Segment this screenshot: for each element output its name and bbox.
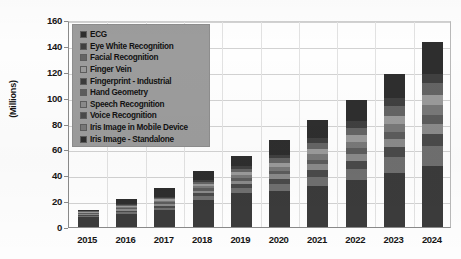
legend-label: Fingerprint - Industrial <box>90 77 171 86</box>
bar-segment <box>346 169 367 181</box>
y-axis-tick-label: 160 <box>28 16 62 26</box>
bar-segment <box>307 177 328 186</box>
bar-segment <box>422 166 443 227</box>
bar-segment <box>307 120 328 139</box>
x-axis-tick-label: 2020 <box>259 234 299 245</box>
vertical-gridline <box>261 22 262 227</box>
legend-item[interactable]: Finger Vein <box>80 64 206 76</box>
bar-2016[interactable] <box>116 199 137 227</box>
legend-label: Iris Image in Mobile Device <box>90 123 188 132</box>
x-axis-tick-label: 2021 <box>297 234 337 245</box>
y-axis-tick-label: 120 <box>28 68 62 78</box>
bar-segment <box>384 98 405 106</box>
y-axis-tick-label: 20 <box>28 197 62 207</box>
legend-item[interactable]: Voice Recognition <box>80 110 206 122</box>
legend-swatch-icon <box>80 112 87 119</box>
legend-label: Iris Image - Standalone <box>90 135 174 144</box>
bar-segment <box>346 128 367 136</box>
bar-segment <box>422 115 443 124</box>
bar-segment <box>193 171 214 179</box>
vertical-gridline <box>299 22 300 227</box>
legend-item[interactable]: Eye White Recognition <box>80 41 206 53</box>
bar-2018[interactable] <box>193 171 214 227</box>
vertical-gridline <box>414 22 415 227</box>
x-axis-tick-label: 2022 <box>335 234 375 245</box>
bar-segment <box>346 154 367 161</box>
legend-label: Facial Recognition <box>90 53 158 62</box>
legend-swatch-icon <box>80 54 87 61</box>
bar-segment <box>269 140 290 154</box>
gridline <box>69 22 450 23</box>
bar-2021[interactable] <box>307 120 328 227</box>
legend-item[interactable]: Iris Image in Mobile Device <box>80 122 206 134</box>
bar-segment <box>422 42 443 74</box>
bar-2015[interactable] <box>78 210 99 227</box>
legend-label: Voice Recognition <box>90 111 157 120</box>
x-axis-tick-label: 2024 <box>412 234 452 245</box>
legend-item[interactable]: Iris Image - Standalone <box>80 133 206 145</box>
bar-2019[interactable] <box>231 156 252 227</box>
legend-label: ECG <box>90 30 107 39</box>
bar-2020[interactable] <box>269 140 290 227</box>
legend-item[interactable]: Fingerprint - Industrial <box>80 75 206 87</box>
bar-2024[interactable] <box>422 42 443 227</box>
bar-segment <box>422 105 443 115</box>
y-axis-tick-label: 140 <box>28 42 62 52</box>
legend-item[interactable]: Speech Recognition <box>80 99 206 111</box>
bar-segment <box>346 142 367 149</box>
bar-segment <box>346 161 367 169</box>
legend-item[interactable]: Facial Recognition <box>80 52 206 64</box>
y-axis-tick-label: 100 <box>28 94 62 104</box>
legend-label: Finger Vein <box>90 65 131 74</box>
legend-swatch-icon <box>80 43 87 50</box>
bar-segment <box>384 116 405 124</box>
bar-segment <box>269 191 290 227</box>
bar-segment <box>384 132 405 139</box>
legend-item[interactable]: Hand Geometry <box>80 87 206 99</box>
x-axis-tick-label: 2017 <box>144 234 184 245</box>
bar-2022[interactable] <box>346 100 367 227</box>
legend-swatch-icon <box>80 31 87 38</box>
bar-segment <box>384 106 405 115</box>
y-axis-tick-label: 40 <box>28 171 62 181</box>
y-axis-tick-label: 60 <box>28 145 62 155</box>
bar-segment <box>346 100 367 121</box>
bar-segment <box>231 193 252 227</box>
legend-swatch-icon <box>80 101 87 108</box>
bar-segment <box>307 186 328 227</box>
bar-segment <box>231 156 252 166</box>
bar-segment <box>269 184 290 191</box>
bar-segment <box>193 200 214 227</box>
x-axis-tick-label: 2023 <box>374 234 414 245</box>
legend-label: Eye White Recognition <box>90 42 173 51</box>
chart-figure: 020406080100120140160 (Millions) 2015201… <box>0 0 461 259</box>
y-axis-tick-mark <box>64 228 68 229</box>
chart-legend: ECGEye White RecognitionFacial Recogniti… <box>72 24 210 147</box>
y-axis-tick-label: 0 <box>28 223 62 233</box>
legend-swatch-icon <box>80 66 87 73</box>
bar-segment <box>422 146 443 167</box>
bar-2023[interactable] <box>384 74 405 227</box>
bar-segment <box>384 173 405 227</box>
legend-label: Hand Geometry <box>90 88 148 97</box>
x-axis-tick-label: 2015 <box>67 234 107 245</box>
legend-swatch-icon <box>80 78 87 85</box>
bar-segment <box>384 74 405 98</box>
bar-segment <box>422 83 443 95</box>
x-axis-tick-label: 2016 <box>105 234 145 245</box>
legend-swatch-icon <box>80 89 87 96</box>
legend-item[interactable]: ECG <box>80 29 206 41</box>
legend-swatch-icon <box>80 136 87 143</box>
bar-segment <box>154 188 175 196</box>
bar-segment <box>422 74 443 84</box>
y-axis-tick-label: 80 <box>28 120 62 130</box>
vertical-gridline <box>375 22 376 227</box>
y-axis-title: (Millions) <box>8 64 18 134</box>
bar-segment <box>422 134 443 146</box>
bar-segment <box>422 95 443 105</box>
legend-swatch-icon <box>80 124 87 131</box>
bar-segment <box>78 217 99 227</box>
bar-2017[interactable] <box>154 188 175 227</box>
vertical-gridline <box>337 22 338 227</box>
bar-segment <box>384 139 405 148</box>
